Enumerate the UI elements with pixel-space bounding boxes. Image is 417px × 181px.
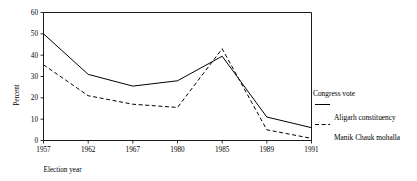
plot-frame [44, 13, 312, 141]
x-tick-label-1967: 1967 [126, 146, 141, 154]
y-tick-label-60: 60 [31, 9, 39, 17]
series-line-aligarh-constituency [44, 34, 312, 128]
x-tick-label-1991: 1991 [304, 146, 319, 154]
legend-header: Congress vote [313, 89, 356, 98]
x-tick-label-1985: 1985 [215, 146, 230, 154]
y-tick-label-20: 20 [31, 94, 39, 102]
legend: Congress vote Aligarh constituency Manik… [313, 89, 401, 142]
chart-figure: 60 50 40 30 20 10 0 Percent 1957 1962 19… [0, 0, 417, 181]
series-line-manik-chauk-mohalla [44, 49, 312, 139]
x-tick-label-1989: 1989 [260, 146, 275, 154]
y-tick-label-30: 30 [31, 73, 39, 81]
legend-label-aligarh-constituency: Aligarh constituency [334, 113, 396, 122]
y-axis-tick-labels: 60 50 40 30 20 10 0 [31, 9, 39, 145]
x-axis-tick-labels: 1957 1962 1967 1980 1985 1989 1991 [36, 146, 319, 154]
y-tick-label-0: 0 [34, 137, 38, 145]
x-tick-label-1957: 1957 [36, 146, 51, 154]
y-tick-label-50: 50 [31, 30, 39, 38]
y-tick-label-40: 40 [31, 52, 39, 60]
legend-label-manik-chauk-mohalla: Manik Chauk mohalla [334, 133, 401, 142]
y-axis-title: Percent [13, 84, 21, 106]
x-tick-label-1962: 1962 [81, 146, 96, 154]
x-axis-title: Election year [44, 166, 83, 174]
y-tick-label-10: 10 [31, 116, 39, 124]
x-tick-label-1980: 1980 [170, 146, 185, 154]
